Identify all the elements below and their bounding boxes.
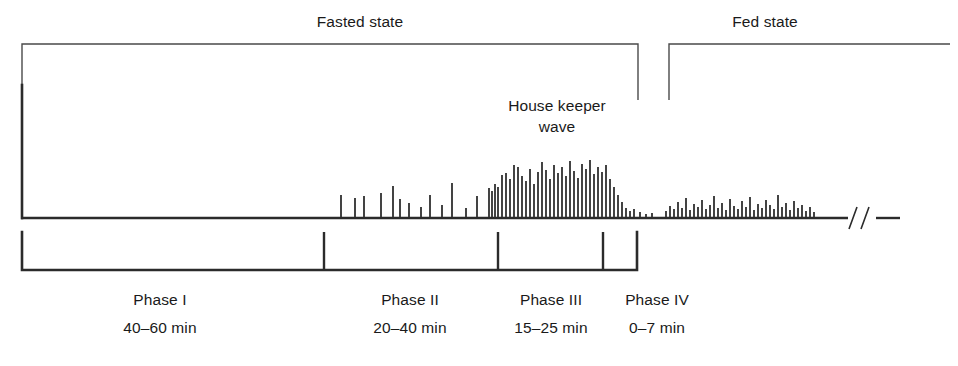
state-brackets xyxy=(22,44,950,100)
phase-tick-marks xyxy=(324,232,603,270)
contraction-spikes xyxy=(341,160,814,217)
axis-break-icon xyxy=(849,207,869,229)
motility-trace-svg xyxy=(0,0,958,366)
chart-axes xyxy=(21,85,900,229)
fasted-state-bracket xyxy=(22,44,638,100)
fed-state-bracket xyxy=(669,44,950,100)
mmc-motility-figure: Fasted state Fed state House keeper wave… xyxy=(0,0,958,366)
phase-scale xyxy=(22,232,637,270)
phase-scale-bracket xyxy=(22,232,637,270)
